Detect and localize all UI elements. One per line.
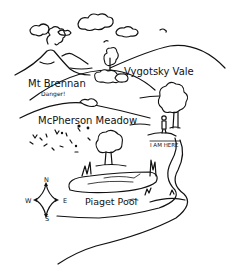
compass-north: N	[44, 176, 49, 184]
meadow-flowers	[30, 124, 90, 152]
label-mcpherson-meadow: McPherson Meadow	[38, 115, 137, 126]
map-drawing	[0, 0, 238, 277]
compass-south: S	[45, 215, 49, 223]
pool-tree	[96, 130, 126, 166]
person-figure	[148, 116, 180, 141]
clouds	[30, 14, 166, 42]
compass-rose	[33, 182, 59, 218]
label-piaget-pool: Piaget Pool	[85, 196, 137, 207]
compass-west: W	[25, 197, 31, 205]
label-danger-note: Danger!	[41, 90, 65, 97]
label-vygotsky-vale: Vygotsky Vale	[124, 66, 194, 77]
landscape-map: Mt Brennan Danger! Vygotsky Vale McPhers…	[0, 0, 238, 277]
label-i-am-here: I AM HERE	[150, 142, 179, 148]
compass-east: E	[63, 197, 67, 205]
label-mt-brennan: Mt Brennan	[28, 78, 86, 89]
